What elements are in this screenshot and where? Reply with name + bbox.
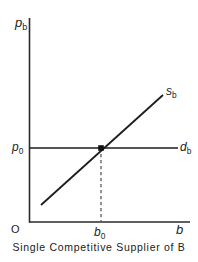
y-tick-label-p0-subscript: 0 xyxy=(19,146,24,156)
demand-curve-label: db xyxy=(180,141,191,153)
origin-label: O xyxy=(11,224,20,235)
supply-curve-label: sb xyxy=(166,85,177,97)
demand-curve-label-main: d xyxy=(180,140,187,154)
figure-caption: Single Competitive Supplier of B xyxy=(0,241,198,253)
x-tick-label-b0-main: b xyxy=(94,225,101,239)
x-tick-label-b0: b0 xyxy=(94,226,105,238)
y-axis-title-subscript: b xyxy=(22,22,27,32)
x-axis-title: b xyxy=(176,223,183,236)
supply-curve-label-subscript: b xyxy=(172,90,177,100)
y-tick-label-p0: p0 xyxy=(12,141,23,153)
economics-supply-demand-figure: pb b O p0 b0 sb db Single Competitive Su… xyxy=(0,0,198,262)
x-axis-title-main: b xyxy=(176,222,183,237)
plot-canvas xyxy=(0,0,198,262)
x-tick-label-b0-subscript: 0 xyxy=(101,231,106,241)
equilibrium-point-marker xyxy=(98,145,104,151)
demand-curve-label-subscript: b xyxy=(187,146,192,156)
y-axis-title: pb xyxy=(15,16,27,29)
y-tick-label-p0-main: p xyxy=(12,140,19,154)
